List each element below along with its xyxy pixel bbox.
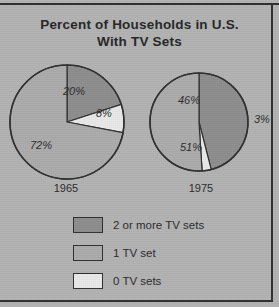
legend-label-one-set: 1 TV set bbox=[113, 247, 156, 259]
pie-slice-51 bbox=[150, 73, 202, 171]
chart-title-line-1: Percent of Households in U.S. bbox=[40, 17, 239, 32]
legend-label-zero-sets: 0 TV sets bbox=[113, 275, 161, 287]
frame-rule-top bbox=[0, 3, 279, 5]
frame-rule-right bbox=[271, 3, 273, 302]
pie-1965-year-label: 1965 bbox=[30, 182, 102, 194]
chart-title-line-2: With TV Sets bbox=[0, 33, 279, 50]
legend-swatch-two-or-more bbox=[73, 217, 103, 233]
pie-chart-1965 bbox=[8, 63, 126, 181]
legend-item-two-or-more: 2 or more TV sets bbox=[73, 214, 204, 236]
chart-title: Percent of Households in U.S. With TV Se… bbox=[0, 16, 279, 50]
chart-figure: Percent of Households in U.S. With TV Se… bbox=[0, 0, 279, 307]
pie-1975-slice-label-46: 46% bbox=[178, 94, 200, 106]
chart-legend: 2 or more TV sets 1 TV set 0 TV sets bbox=[73, 214, 204, 298]
pie-1975-svg bbox=[148, 71, 250, 173]
pie-1965-slice-label-20: 20% bbox=[63, 85, 85, 97]
pie-1965-slice-label-72: 72% bbox=[30, 139, 52, 151]
pie-1975-slice-label-51: 51% bbox=[180, 141, 202, 153]
pie-1975-year-label: 1975 bbox=[165, 182, 237, 194]
pie-1965-svg bbox=[8, 63, 126, 181]
legend-item-zero-sets: 0 TV sets bbox=[73, 270, 204, 292]
legend-swatch-zero-sets bbox=[73, 273, 103, 289]
frame-rule-bottom bbox=[0, 300, 273, 302]
pie-1965-slice-label-8: 8% bbox=[96, 107, 112, 119]
pie-1975-slice-label-3: 3% bbox=[254, 113, 270, 125]
legend-item-one-set: 1 TV set bbox=[73, 242, 204, 264]
pie-chart-1975 bbox=[148, 71, 250, 173]
legend-label-two-or-more: 2 or more TV sets bbox=[113, 219, 204, 231]
legend-swatch-one-set bbox=[73, 245, 103, 261]
